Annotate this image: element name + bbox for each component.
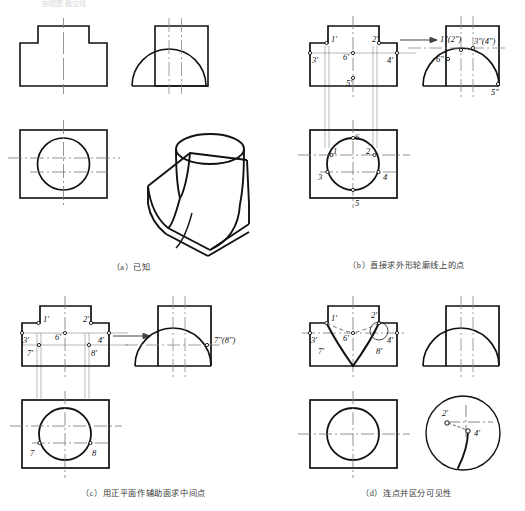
label-3: 3 [317, 172, 322, 182]
panel-d-top-centerlines [298, 391, 410, 478]
panel-b-front-points [308, 41, 398, 79]
panel-a-drawing [0, 8, 262, 260]
label-5p: 5' [346, 78, 352, 88]
label-4p: 4' [387, 55, 393, 65]
panel-a-caption: （a）已知 [0, 260, 262, 272]
label-5: 5 [355, 198, 359, 208]
panel-b-projection-arrow [400, 37, 437, 42]
panel-a: （a）已知 [0, 8, 262, 278]
label-4p: 4' [387, 335, 393, 345]
panel-b-top-view [310, 130, 397, 198]
panel-c-side-points [205, 343, 208, 346]
label-8p: 8' [91, 348, 97, 358]
engineering-figure: 剖视图 截交线 [0, 0, 525, 511]
label-2p: 2' [83, 314, 89, 324]
panel-d-drawing: 1' 2' 3' 4' 6' 7' 8' [288, 288, 525, 488]
panel-c-drawing: 1' 2' 3' 4' 6' 7' 8' [0, 288, 287, 488]
label-1pp-2pp: 1"(2") [440, 34, 461, 44]
label-4: 4 [383, 172, 388, 182]
label-4p: 4' [98, 335, 104, 345]
label-1p: 1' [43, 314, 49, 324]
label-6p: 6' [343, 52, 349, 62]
label-1p: 1' [331, 313, 337, 323]
label-3p: 3' [22, 335, 29, 345]
detail-label-4p: 4' [474, 428, 480, 438]
panel-c: 1' 2' 3' 4' 6' 7' 8' [0, 288, 287, 510]
panel-c-side-centerlines [125, 296, 220, 380]
label-8p: 8' [376, 346, 382, 356]
label-6pp: 6" [436, 54, 444, 64]
panel-b: 1' 2' 3' 4' 5' 6' [288, 8, 525, 278]
panel-a-isometric-view [148, 134, 249, 256]
label-5pp: 5" [491, 87, 499, 97]
panel-b-drawing: 1' 2' 3' 4' 5' 6' [288, 8, 525, 260]
panel-b-projection-lines [310, 46, 416, 148]
panel-d-detail-view: 2' 4' [426, 396, 500, 470]
label-3p: 3' [311, 55, 318, 65]
panel-c-top-centerlines [10, 391, 122, 478]
panel-a-side-view [132, 26, 208, 86]
panel-c-projection-arrow [113, 333, 150, 338]
panel-b-front-labels: 1' 2' 3' 4' 5' 6' [311, 34, 393, 88]
label-7p: 7' [27, 348, 33, 358]
label-6p: 6' [55, 332, 61, 342]
panel-d-front-view [310, 306, 397, 366]
label-6p: 6' [343, 333, 349, 343]
label-7: 7 [30, 448, 35, 458]
label-6: 6 [355, 132, 360, 142]
panel-b-top-centerlines [298, 120, 410, 208]
label-2p: 2' [371, 310, 377, 320]
label-3p: 3' [310, 335, 317, 345]
label-1: 1 [333, 146, 337, 156]
label-7p: 7' [318, 346, 324, 356]
panel-b-caption: （b）直接求外形轮廓线上的点 [288, 258, 525, 270]
detail-label-2p: 2' [442, 408, 448, 418]
panel-c-front-labels: 1' 2' 3' 4' 6' 7' 8' [22, 314, 104, 358]
label-2p: 2' [372, 34, 378, 44]
panel-c-caption: （c）用正平面作辅助面求中间点 [0, 486, 287, 498]
label-7pp-8pp: 7"(8") [214, 335, 235, 345]
panel-c-side-labels: 7"(8") [214, 335, 235, 345]
label-1p: 1' [331, 34, 337, 44]
panel-a-top-centerlines [8, 120, 120, 208]
panel-d-side-view [423, 306, 499, 366]
panel-d-side-centerlines [461, 296, 473, 380]
label-3pp-4pp: 3"(4") [473, 36, 495, 46]
label-8: 8 [92, 448, 97, 458]
panel-d: 1' 2' 3' 4' 6' 7' 8' [288, 288, 525, 510]
label-2: 2 [366, 146, 371, 156]
panel-d-caption: （d）连点并区分可见性 [288, 486, 525, 498]
panel-a-side-centerlines [169, 18, 182, 94]
